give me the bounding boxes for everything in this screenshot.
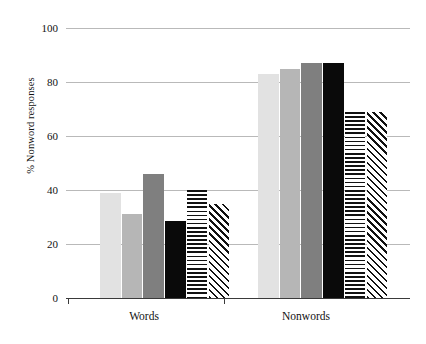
bar-group-words [100,28,229,298]
bar-nonwords-series-5 [345,112,366,298]
bar-nonwords-series-1 [258,74,279,298]
y-tick-label-40: 40 [18,185,58,196]
y-tick-label-20: 20 [18,239,58,250]
bar-words-series-1 [100,193,121,298]
bar-nonwords-series-3 [301,63,322,298]
y-tick-label-60: 60 [18,131,58,142]
bar-nonwords-series-4 [323,63,344,298]
bar-group-nonwords [258,28,387,298]
bar-nonwords-series-2 [280,69,301,299]
x-axis-label-nonwords: Nonwords [282,310,330,322]
y-tick-label-100: 100 [18,23,58,34]
bar-nonwords-series-6 [367,112,388,298]
y-tick-label-80: 80 [18,77,58,88]
x-axis: WordsNonwords [66,298,410,338]
x-tick-0 [68,298,69,304]
bar-words-series-6 [209,204,230,299]
bar-words-series-3 [143,174,164,298]
x-axis-label-words: Words [129,310,159,322]
bar-words-series-5 [187,190,208,298]
y-tick-label-0: 0 [18,293,58,304]
bar-words-series-4 [165,221,186,298]
bar-words-series-2 [122,214,143,298]
bar-chart: % Nonword responses 020406080100 WordsNo… [0,0,426,344]
x-tick-1 [224,298,225,304]
plot-area: 020406080100 [66,28,410,298]
